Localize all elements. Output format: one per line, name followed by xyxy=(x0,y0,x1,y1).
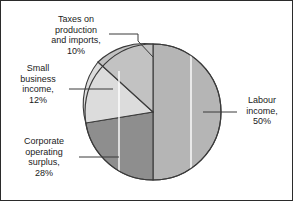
pie-chart-figure: Taxes on production and imports, 10% Sma… xyxy=(0,0,293,201)
slice-label-small-business-income: Small business income, 12% xyxy=(5,63,71,105)
slice-label-corporate-operating-surplus: Corporate operating surplus, 28% xyxy=(7,136,81,178)
slice-label-taxes-on-production-and-imports: Taxes on production and imports, 10% xyxy=(39,14,113,56)
slice-label-labour-income: Labour income, 50% xyxy=(233,95,291,127)
